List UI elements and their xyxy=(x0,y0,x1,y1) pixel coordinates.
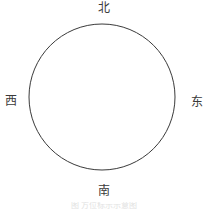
direction-label-south: 南 xyxy=(0,185,208,198)
figure-caption: 图 方位标示示意图 xyxy=(0,202,208,209)
compass-diagram-canvas xyxy=(0,0,208,209)
horizon-circle xyxy=(29,24,175,170)
direction-label-north: 北 xyxy=(0,2,208,15)
compass-figure: 北 东 南 西 图 方位标示示意图 xyxy=(0,0,208,209)
direction-label-east: 东 xyxy=(189,96,205,109)
direction-label-west: 西 xyxy=(3,95,19,108)
